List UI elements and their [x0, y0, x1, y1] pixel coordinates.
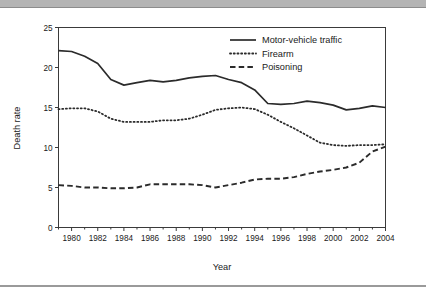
y-tick-label: 25 [43, 24, 53, 33]
x-axis: 1980198219841986198819901992199419961998… [59, 228, 396, 244]
series-group [59, 51, 386, 189]
legend-label: Motor-vehicle traffic [262, 35, 342, 45]
series-line-motor-vehicle-traffic [59, 51, 386, 110]
death-rate-line-chart: 0510152025 19801982198419861988199019921… [0, 8, 426, 284]
y-tick-label: 15 [43, 104, 53, 113]
x-tick-label: 1986 [141, 234, 160, 243]
y-tick-label: 20 [43, 64, 53, 73]
page-top-band [0, 0, 426, 8]
x-axis-title: Year [213, 262, 232, 272]
chart-figure: 0510152025 19801982198419861988199019921… [0, 8, 426, 284]
x-tick-label: 1990 [193, 234, 212, 243]
x-tick-label: 1980 [62, 234, 81, 243]
x-tick-label: 1992 [219, 234, 238, 243]
x-tick-label: 2002 [350, 234, 369, 243]
plot-frame [59, 28, 386, 228]
x-tick-label: 2000 [324, 234, 343, 243]
x-tick-label: 1996 [272, 234, 291, 243]
legend-label: Poisoning [262, 62, 302, 72]
y-axis: 0510152025 [43, 24, 58, 233]
page-bottom-rule [0, 285, 426, 287]
x-tick-label: 1982 [89, 234, 108, 243]
x-tick-label: 1988 [167, 234, 186, 243]
x-tick-label: 1998 [298, 234, 317, 243]
chart-legend: Motor-vehicle trafficFirearmPoisoning [230, 35, 342, 72]
x-tick-label: 2004 [376, 234, 395, 243]
legend-label: Firearm [262, 49, 294, 59]
y-axis-title: Death rate [12, 107, 22, 150]
x-tick-label: 1984 [115, 234, 134, 243]
x-tick-label: 1994 [246, 234, 265, 243]
series-line-poisoning [59, 147, 386, 189]
y-tick-label: 0 [48, 224, 53, 233]
series-line-firearm [59, 108, 386, 146]
y-tick-label: 5 [48, 184, 53, 193]
y-tick-label: 10 [43, 144, 53, 153]
